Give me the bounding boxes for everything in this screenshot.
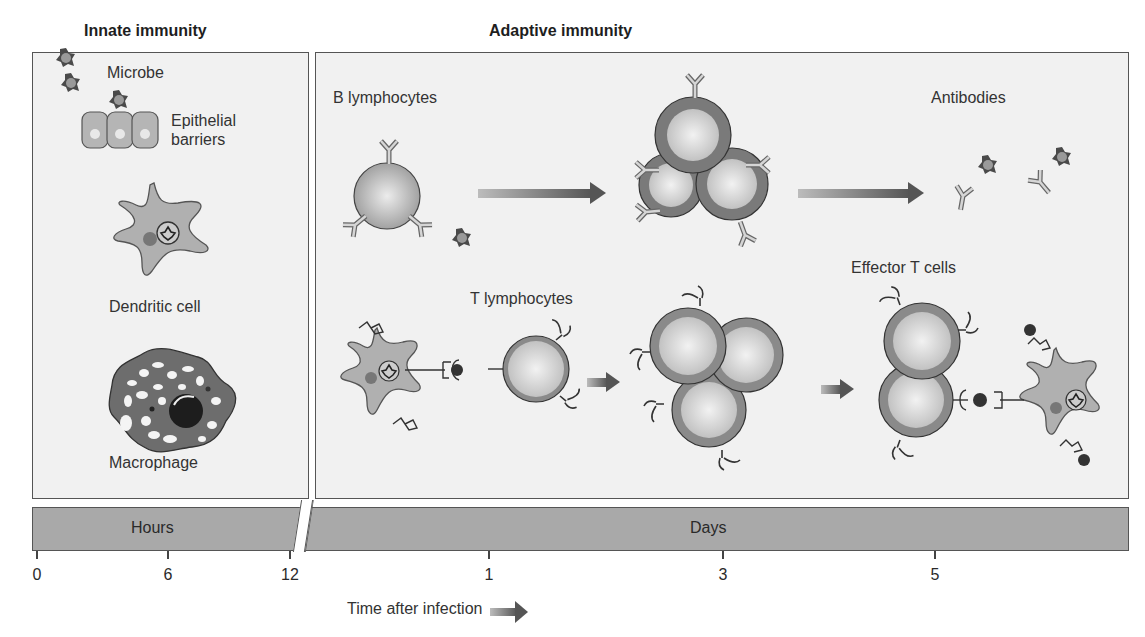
illustration-layer xyxy=(0,0,1145,637)
t-lymphocyte-icon xyxy=(488,313,587,411)
macrophage-icon xyxy=(109,349,235,452)
proliferating-t-cell-cluster-icon xyxy=(630,286,783,470)
arrow-icon xyxy=(821,379,854,399)
arrow-icon xyxy=(478,182,606,204)
effector-t-cell-icon xyxy=(876,285,987,465)
arrow-icon xyxy=(798,182,924,204)
microbe-icon xyxy=(61,73,80,92)
arrow-icon xyxy=(587,372,620,392)
epithelial-barrier-icon xyxy=(82,112,158,148)
activated-b-cell-cluster-icon xyxy=(636,75,769,246)
time-arrow-icon xyxy=(490,601,528,623)
antigen-presenting-cell-icon xyxy=(341,322,463,430)
antibody-icon xyxy=(953,147,1071,211)
dendritic-cell-icon xyxy=(114,183,208,275)
microbe-icon xyxy=(109,90,128,109)
target-cell-icon xyxy=(994,324,1099,466)
b-lymphocyte-icon xyxy=(343,141,471,247)
microbe-icon xyxy=(56,48,75,67)
